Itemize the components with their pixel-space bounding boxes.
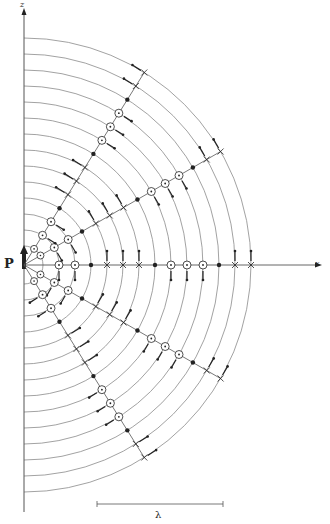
field-out-of-page-center-icon [164, 346, 166, 348]
field-out-of-page-center-icon [101, 389, 103, 391]
e-field-arrowhead-icon [212, 138, 215, 141]
null-point-dot-icon [57, 206, 61, 210]
e-field-arrowhead-icon [170, 279, 173, 282]
e-field-arrowhead-icon [198, 146, 201, 149]
e-field-arrowhead-icon [29, 301, 32, 304]
field-out-of-page-center-icon [150, 338, 152, 340]
null-point-dot-icon [125, 97, 129, 101]
z-axis-arrow-icon [22, 8, 27, 15]
e-field-arrowhead-icon [170, 366, 173, 369]
e-field-arrowhead-icon [63, 172, 66, 175]
field-out-of-page-center-icon [40, 255, 42, 257]
field-out-of-page-center-icon [50, 221, 52, 223]
null-point-dot-icon [135, 197, 139, 201]
e-field-arrow-line [214, 139, 219, 148]
e-field-arrowhead-icon [226, 365, 229, 368]
e-field-arrow-line [117, 195, 122, 204]
null-point-dot-icon [80, 296, 84, 300]
e-field-arrowhead-icon [250, 250, 253, 253]
diagram-canvas: z x P λ [0, 0, 330, 524]
field-out-of-page-center-icon [40, 274, 42, 276]
e-field-arrowhead-icon [54, 242, 57, 245]
e-field-arrowhead-icon [186, 279, 189, 282]
field-out-of-page-center-icon [74, 264, 76, 266]
e-field-arrow-line [132, 65, 140, 70]
e-field-arrow-line [103, 203, 108, 212]
e-field-arrowhead-icon [87, 340, 90, 343]
e-field-arrow-line [48, 238, 56, 243]
e-field-arrowhead-icon [155, 449, 158, 452]
e-field-arrow-line [56, 187, 64, 192]
e-field-arrowhead-icon [59, 302, 62, 305]
null-point-dot-icon [153, 263, 157, 267]
field-out-of-page-center-icon [118, 416, 120, 418]
e-field-arrowhead-icon [212, 357, 215, 360]
e-field-arrowhead-icon [171, 195, 174, 198]
e-field-arrow-line [158, 352, 163, 360]
e-field-arrowhead-icon [122, 133, 125, 136]
field-out-of-page-center-icon [33, 280, 35, 282]
null-point-dot-icon [91, 152, 95, 156]
e-field-arrow-line [98, 294, 103, 303]
e-field-arrowhead-icon [74, 251, 77, 254]
e-field-arrowhead-icon [158, 203, 161, 206]
e-field-arrowhead-icon [102, 293, 105, 296]
e-field-arrow-line [89, 211, 94, 220]
field-out-of-page-center-icon [42, 294, 44, 296]
e-field-arrowhead-icon [146, 435, 149, 438]
e-field-arrowhead-icon [105, 423, 108, 426]
e-field-arrow-line [172, 360, 177, 368]
e-field-arrow-line [98, 406, 106, 411]
null-point-dot-icon [91, 374, 95, 378]
dipole-label: P [4, 256, 14, 271]
e-field-arrow-line [124, 116, 132, 121]
null-point-dot-icon [57, 320, 61, 324]
null-point-dot-icon [191, 165, 195, 169]
e-field-arrow-line [73, 160, 81, 165]
null-point-dot-icon [125, 428, 129, 432]
field-out-of-page-center-icon [50, 307, 52, 309]
e-field-arrow-line [65, 174, 73, 179]
e-field-arrow-line [107, 144, 115, 149]
null-point-dot-icon [80, 229, 84, 233]
e-field-arrow-line [115, 130, 123, 135]
e-field-arrowhead-icon [185, 187, 188, 190]
e-field-arrowhead-icon [123, 77, 126, 80]
e-field-arrowhead-icon [96, 354, 99, 357]
e-field-arrow-line [124, 79, 132, 84]
field-out-of-page-center-icon [178, 175, 180, 177]
e-field-arrowhead-icon [138, 250, 141, 253]
e-field-arrowhead-icon [79, 327, 82, 330]
e-field-arrowhead-icon [234, 250, 237, 253]
field-out-of-page-center-icon [202, 264, 204, 266]
field-out-of-page-center-icon [150, 191, 152, 193]
field-out-of-page-center-icon [67, 290, 69, 292]
field-out-of-page-center-icon [186, 264, 188, 266]
e-field-arrowhead-icon [96, 410, 99, 413]
e-field-arrowhead-icon [88, 396, 91, 399]
e-field-arrowhead-icon [55, 186, 58, 189]
field-out-of-page-center-icon [53, 282, 55, 284]
field-out-of-page-center-icon [33, 248, 35, 250]
e-field-arrowhead-icon [122, 250, 125, 253]
e-field-arrowhead-icon [143, 350, 146, 353]
field-out-of-page-center-icon [53, 247, 55, 249]
e-field-arrowhead-icon [113, 147, 116, 150]
wavelength-label: λ [155, 509, 161, 520]
null-point-dot-icon [89, 263, 93, 267]
e-field-arrow-line [88, 355, 96, 360]
e-field-arrowhead-icon [62, 228, 65, 231]
null-point-dot-icon [191, 360, 195, 364]
e-field-arrow-line [144, 344, 149, 352]
e-field-arrowhead-icon [131, 64, 134, 67]
field-out-of-page-center-icon [164, 183, 166, 185]
field-out-of-page-center-icon [101, 139, 103, 141]
e-field-arrowhead-icon [74, 279, 77, 282]
field-out-of-page-center-icon [42, 234, 44, 236]
e-field-arrowhead-icon [37, 315, 40, 318]
null-point-dot-icon [217, 263, 221, 267]
x-axis-label: x [315, 259, 320, 268]
field-out-of-page-center-icon [170, 264, 172, 266]
z-axis-label: z [20, 0, 24, 9]
e-field-arrow-line [112, 302, 117, 311]
